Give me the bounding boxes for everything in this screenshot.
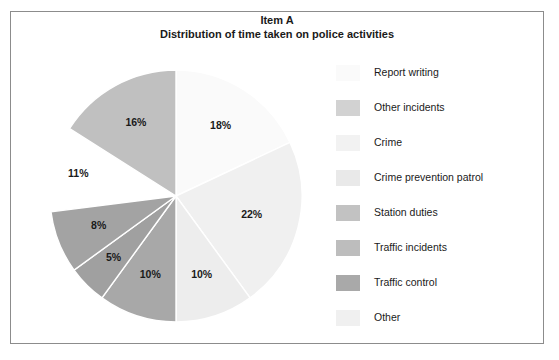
- item-label: Item A: [11, 13, 543, 27]
- chart-title-block: Item A Distribution of time taken on pol…: [11, 13, 543, 41]
- legend-item: Crime prevention patrol: [336, 167, 546, 202]
- legend-label: Traffic control: [374, 273, 437, 291]
- legend-item: Traffic incidents: [336, 237, 546, 272]
- legend-swatch: [336, 275, 360, 291]
- legend-swatch: [336, 240, 360, 256]
- pie-chart: 18%22%10%10%5%8%11%16%: [48, 66, 304, 326]
- legend-swatch: [336, 100, 360, 116]
- pie-slice-value: 22%: [241, 208, 263, 220]
- legend-swatch: [336, 65, 360, 81]
- chart-title: Distribution of time taken on police act…: [11, 27, 543, 41]
- legend-item: Other incidents: [336, 97, 546, 132]
- legend-label: Crime: [374, 133, 402, 151]
- legend-label: Station duties: [374, 203, 438, 221]
- legend-item: Traffic control: [336, 272, 546, 307]
- legend-label: Traffic incidents: [374, 238, 447, 256]
- pie-slice-value: 16%: [125, 116, 147, 128]
- legend-label: Report writing: [374, 63, 439, 81]
- legend-item: Report writing: [336, 62, 546, 97]
- pie-slices: [48, 70, 302, 322]
- legend-swatch: [336, 205, 360, 221]
- legend-swatch: [336, 135, 360, 151]
- legend-swatch: [336, 170, 360, 186]
- pie-slice-value: 10%: [140, 268, 162, 280]
- legend-item: Station duties: [336, 202, 546, 237]
- legend-item: Crime: [336, 132, 546, 167]
- pie-slice-value: 18%: [210, 119, 232, 131]
- legend-swatch: [336, 310, 360, 326]
- legend-label: Crime prevention patrol: [374, 168, 483, 186]
- pie-slice-value: 8%: [91, 219, 107, 231]
- pie-slice-value: 5%: [106, 251, 122, 263]
- pie-slice-value: 11%: [68, 167, 89, 179]
- legend-label: Other: [374, 308, 400, 326]
- pie-svg: 18%22%10%10%5%8%11%16%: [48, 66, 304, 326]
- chart-legend: Report writingOther incidentsCrimeCrime …: [336, 62, 546, 342]
- pie-chart-figure: Item A Distribution of time taken on pol…: [0, 0, 559, 360]
- legend-label: Other incidents: [374, 98, 445, 116]
- pie-slice-value: 10%: [191, 268, 213, 280]
- legend-item: Other: [336, 307, 546, 342]
